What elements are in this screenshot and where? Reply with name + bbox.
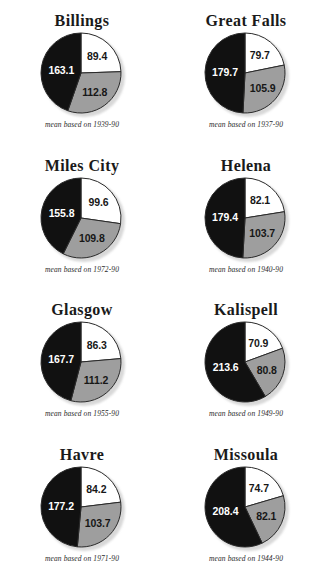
station-title: Kalispell — [214, 300, 278, 320]
chart-caption: mean based on 1940-90 — [209, 265, 283, 274]
station-title: Great Falls — [206, 11, 287, 31]
chart-caption: mean based on 1949-90 — [209, 409, 283, 418]
pie-slices — [40, 321, 122, 403]
pie-chart-missoula: Missoula74.782.1208.4mean based on 1944-… — [164, 443, 328, 587]
pie-figure: 74.782.1208.4 — [204, 466, 288, 550]
pie-slices — [204, 32, 286, 114]
pie-chart-kalispell: Kalispell70.980.8213.6mean based on 1949… — [164, 298, 328, 443]
pie-chart-billings: Billings89.4112.8163.1mean based on 1939… — [0, 9, 164, 154]
station-title: Missoula — [214, 445, 279, 465]
pie-chart-grid: Billings89.4112.8163.1mean based on 1939… — [0, 9, 328, 587]
pie-slice-dark — [205, 33, 245, 113]
chart-caption: mean based on 1939-90 — [45, 120, 119, 129]
chart-caption: mean based on 1955-90 — [45, 409, 119, 418]
pie-slice-mid — [243, 211, 285, 257]
pie-chart-glasgow: Glasgow86.3111.2167.7mean based on 1955-… — [0, 298, 164, 443]
pie-figure: 70.980.8213.6 — [204, 321, 288, 405]
pie-figure: 89.4112.8163.1 — [40, 32, 124, 116]
pie-slices — [204, 321, 286, 403]
pie-chart-havre: Havre84.2103.7177.2mean based on 1971-90 — [0, 443, 164, 587]
pie-slices — [40, 32, 122, 114]
pie-slice-mid — [243, 65, 285, 113]
pie-figure: 86.3111.2167.7 — [40, 321, 124, 405]
pie-slice-dark — [41, 467, 81, 547]
top-cut-off-text — [0, 0, 328, 9]
station-title: Havre — [60, 445, 104, 465]
station-title: Helena — [221, 156, 271, 176]
pie-slice-light — [81, 467, 121, 507]
pie-slice-light — [81, 322, 121, 362]
pie-chart-great-falls: Great Falls79.7105.9179.7mean based on 1… — [164, 9, 328, 154]
pie-slices — [40, 177, 122, 259]
pie-slice-light — [245, 178, 284, 218]
pie-figure: 82.1103.7179.4 — [204, 177, 288, 261]
pie-figure: 84.2103.7177.2 — [40, 466, 124, 550]
chart-caption: mean based on 1937-90 — [209, 120, 283, 129]
pie-figure: 79.7105.9179.7 — [204, 32, 288, 116]
station-title: Billings — [55, 11, 110, 31]
pie-chart-helena: Helena82.1103.7179.4mean based on 1940-9… — [164, 154, 328, 299]
pie-slices — [40, 466, 122, 548]
chart-caption: mean based on 1944-90 — [209, 554, 283, 563]
pie-slices — [204, 177, 286, 259]
pie-slices — [204, 466, 286, 548]
pie-chart-miles-city: Miles City99.6109.8155.8mean based on 19… — [0, 154, 164, 299]
pie-slice-dark — [205, 178, 245, 258]
chart-caption: mean based on 1972-90 — [45, 265, 119, 274]
pie-figure: 99.6109.8155.8 — [40, 177, 124, 261]
pie-slice-mid — [77, 502, 121, 547]
station-title: Glasgow — [51, 300, 112, 320]
station-title: Miles City — [45, 156, 120, 176]
pie-slice-light — [81, 33, 121, 73]
chart-caption: mean based on 1971-90 — [45, 554, 119, 563]
pie-slice-light — [81, 178, 121, 224]
